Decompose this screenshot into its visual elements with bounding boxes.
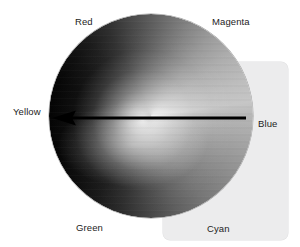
figure-canvas: Red Magenta Yellow Blue Green Cyan <box>0 0 300 247</box>
hue-direction-arrow <box>50 104 246 132</box>
label-green: Green <box>76 222 103 234</box>
label-yellow: Yellow <box>13 106 41 118</box>
label-magenta: Magenta <box>212 16 250 28</box>
label-cyan: Cyan <box>207 223 230 235</box>
label-red: Red <box>75 16 93 28</box>
label-blue: Blue <box>258 118 277 130</box>
